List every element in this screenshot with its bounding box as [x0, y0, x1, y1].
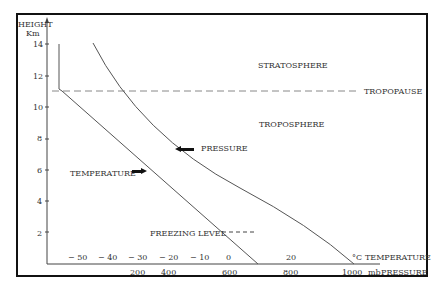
pressure-axis-label: PRESSURE: [381, 268, 428, 277]
svg-text:1000: 1000: [342, 268, 362, 277]
svg-text:− 20: − 20: [159, 253, 178, 262]
svg-text:2: 2: [37, 229, 42, 238]
temperature-label: TEMPERATURE: [70, 169, 136, 178]
svg-text:− 30: − 30: [128, 253, 147, 262]
svg-text:12: 12: [33, 72, 43, 81]
temperature-axis-label: TEMPERATURE: [365, 253, 431, 262]
svg-text:6: 6: [37, 166, 42, 175]
freezing-level-label: FREEZING LEVEL: [150, 229, 227, 238]
temperature-ticks: − 50 − 40 − 30 − 20 − 10 0 20: [68, 253, 296, 262]
svg-text:− 40: − 40: [98, 253, 117, 262]
atmosphere-diagram: HEIGHT Km 14 12 10 8 6 4 2 − 50 − 40 − 3…: [0, 0, 441, 296]
svg-text:− 10: − 10: [190, 253, 209, 262]
svg-text:8: 8: [37, 134, 42, 143]
pressure-label: PRESSURE: [201, 144, 248, 153]
svg-text:600: 600: [222, 268, 237, 277]
mb-label: mb: [368, 268, 381, 277]
diagram-canvas: HEIGHT Km 14 12 10 8 6 4 2 − 50 − 40 − 3…: [0, 0, 441, 296]
y-axis-label-height: HEIGHT: [18, 20, 53, 29]
troposphere-label: TROPOSPHERE: [259, 120, 325, 129]
svg-text:400: 400: [161, 268, 176, 277]
tropopause-label: TROPOPAUSE: [364, 87, 423, 96]
svg-text:200: 200: [130, 268, 145, 277]
svg-text:4: 4: [37, 197, 42, 206]
y-axis-label-km: Km: [26, 29, 40, 38]
svg-text:20: 20: [286, 253, 296, 262]
degc-label: °C: [352, 253, 362, 262]
svg-text:800: 800: [283, 268, 298, 277]
stratosphere-label: STRATOSPHERE: [258, 61, 328, 70]
svg-text:0: 0: [226, 253, 231, 262]
svg-text:− 50: − 50: [68, 253, 87, 262]
svg-text:10: 10: [33, 103, 43, 112]
svg-text:14: 14: [33, 40, 43, 49]
